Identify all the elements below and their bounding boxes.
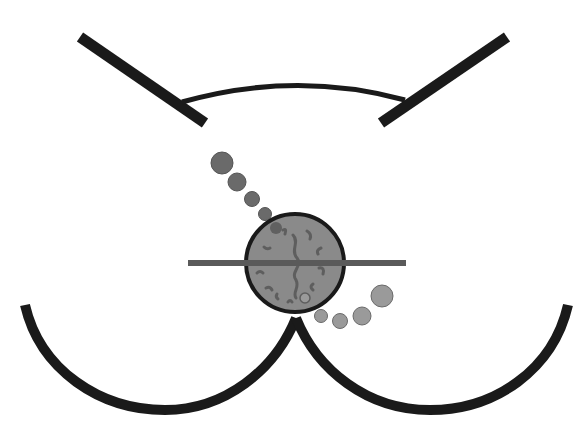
- upper-dot-trail: [211, 152, 272, 221]
- left-diagonal-bar: [80, 37, 205, 123]
- right-diagonal-bar: [381, 37, 507, 123]
- left-bottom-arc: [25, 305, 296, 410]
- top-arc: [182, 85, 405, 102]
- diagram-canvas: [0, 0, 583, 421]
